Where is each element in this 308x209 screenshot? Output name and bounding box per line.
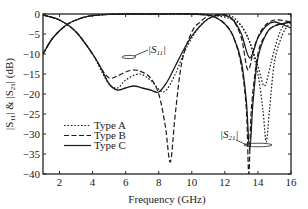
y-tick-label: −40: [23, 168, 41, 180]
y-axis-ticks: 0−5−10−15−20−25−30−35−40: [23, 8, 291, 180]
curve-s11-type-c: [43, 15, 291, 92]
y-tick-label: 0: [35, 8, 41, 20]
x-tick-label: 2: [57, 176, 63, 188]
x-tick-label: 8: [156, 176, 162, 188]
x-tick-label: 4: [90, 176, 96, 188]
s11-marker-ellipse: [122, 55, 136, 58]
x-tick-label: 16: [286, 176, 298, 188]
y-tick-label: −10: [23, 48, 41, 60]
s11-annotation: |S11|: [148, 43, 166, 57]
y-tick-label: −35: [23, 148, 41, 160]
y-tick-label: −20: [23, 88, 41, 100]
x-tick-label: 10: [186, 176, 198, 188]
y-tick-label: −5: [28, 28, 40, 40]
curve-s21-type-a: [43, 14, 291, 142]
data-curves: [43, 14, 291, 174]
y-tick-label: −25: [23, 108, 41, 120]
x-tick-label: 14: [252, 176, 264, 188]
x-tick-label: 12: [219, 176, 230, 188]
x-axis-label: Frequency (GHz): [128, 193, 206, 206]
y-axis-label: |S11| & |S21| (dB): [3, 58, 17, 130]
s-parameter-chart: 246810121416 0−5−10−15−20−25−30−35−40 |S…: [0, 0, 308, 209]
legend: Type AType BType C: [64, 119, 126, 151]
x-tick-label: 6: [123, 176, 129, 188]
s21-annotation: |S21|: [220, 128, 239, 142]
y-tick-label: −30: [23, 128, 41, 140]
y-tick-label: −15: [23, 68, 41, 80]
curve-s11-type-a: [43, 15, 291, 92]
legend-label: Type C: [94, 139, 126, 151]
